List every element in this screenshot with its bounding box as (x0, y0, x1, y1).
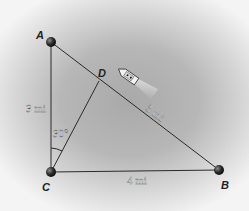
label-cb-length: 4 mi (127, 174, 147, 186)
diagram-canvas: A D C B 3 mi 4 mi 5 mi 30° (0, 0, 249, 211)
segment-ab (51, 42, 219, 170)
label-ac-length: 3 mi (26, 102, 46, 114)
label-a: A (35, 29, 44, 41)
point-c (46, 167, 56, 177)
point-a (46, 37, 56, 47)
triangle-diagram: A D C B 3 mi 4 mi 5 mi 30° (0, 0, 249, 211)
label-b: B (221, 179, 229, 191)
label-d: D (98, 67, 106, 79)
point-b (214, 165, 224, 175)
label-c: C (42, 181, 51, 193)
label-angle-c: 30° (53, 127, 68, 139)
ship-icon (115, 64, 158, 99)
label-ab-length: 5 mi (144, 102, 167, 124)
segment-cb (51, 170, 219, 172)
angle-arc-icon (51, 148, 62, 151)
